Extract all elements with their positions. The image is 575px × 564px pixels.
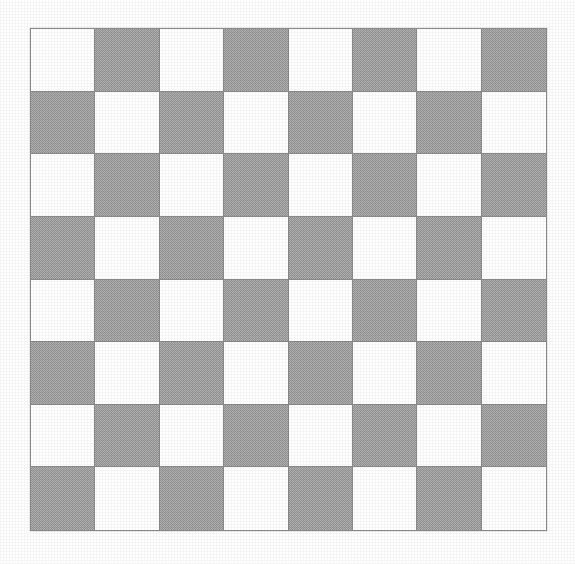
board-square-light-r8c8[interactable] <box>482 467 546 530</box>
board-square-dark-r2c5[interactable] <box>289 92 353 155</box>
board-square-dark-r2c1[interactable] <box>31 92 95 155</box>
board-square-light-r3c1[interactable] <box>31 154 95 217</box>
board-square-dark-r3c8[interactable] <box>482 154 546 217</box>
board-square-light-r7c7[interactable] <box>417 405 481 468</box>
board-square-dark-r2c3[interactable] <box>160 92 224 155</box>
board-square-dark-r5c6[interactable] <box>353 280 417 343</box>
board-square-dark-r3c2[interactable] <box>95 154 159 217</box>
board-square-dark-r3c6[interactable] <box>353 154 417 217</box>
board-square-dark-r1c8[interactable] <box>482 29 546 92</box>
board-square-dark-r1c6[interactable] <box>353 29 417 92</box>
board-square-dark-r4c7[interactable] <box>417 217 481 280</box>
board-square-light-r4c8[interactable] <box>482 217 546 280</box>
board-square-light-r1c5[interactable] <box>289 29 353 92</box>
board-square-light-r3c7[interactable] <box>417 154 481 217</box>
board-square-dark-r8c3[interactable] <box>160 467 224 530</box>
board-square-dark-r7c2[interactable] <box>95 405 159 468</box>
board-square-dark-r4c3[interactable] <box>160 217 224 280</box>
board-square-light-r3c5[interactable] <box>289 154 353 217</box>
board-square-dark-r7c4[interactable] <box>224 405 288 468</box>
board-square-light-r4c2[interactable] <box>95 217 159 280</box>
board-square-light-r7c5[interactable] <box>289 405 353 468</box>
board-square-light-r6c2[interactable] <box>95 342 159 405</box>
board-square-dark-r3c4[interactable] <box>224 154 288 217</box>
board-square-dark-r5c2[interactable] <box>95 280 159 343</box>
board-square-dark-r5c8[interactable] <box>482 280 546 343</box>
board-square-dark-r2c7[interactable] <box>417 92 481 155</box>
board-square-light-r5c1[interactable] <box>31 280 95 343</box>
board-square-light-r7c3[interactable] <box>160 405 224 468</box>
checkerboard[interactable] <box>30 28 547 531</box>
board-square-light-r6c4[interactable] <box>224 342 288 405</box>
board-square-light-r4c6[interactable] <box>353 217 417 280</box>
board-square-dark-r7c8[interactable] <box>482 405 546 468</box>
board-square-light-r1c7[interactable] <box>417 29 481 92</box>
board-square-light-r2c4[interactable] <box>224 92 288 155</box>
board-square-light-r5c5[interactable] <box>289 280 353 343</box>
board-square-dark-r4c1[interactable] <box>31 217 95 280</box>
board-square-dark-r1c2[interactable] <box>95 29 159 92</box>
board-square-light-r3c3[interactable] <box>160 154 224 217</box>
board-square-light-r8c4[interactable] <box>224 467 288 530</box>
board-square-dark-r8c5[interactable] <box>289 467 353 530</box>
board-square-light-r1c3[interactable] <box>160 29 224 92</box>
board-square-dark-r8c1[interactable] <box>31 467 95 530</box>
board-square-light-r4c4[interactable] <box>224 217 288 280</box>
board-square-dark-r1c4[interactable] <box>224 29 288 92</box>
board-square-light-r5c3[interactable] <box>160 280 224 343</box>
board-square-light-r7c1[interactable] <box>31 405 95 468</box>
board-square-light-r2c6[interactable] <box>353 92 417 155</box>
board-square-light-r6c8[interactable] <box>482 342 546 405</box>
board-square-light-r5c7[interactable] <box>417 280 481 343</box>
board-square-dark-r5c4[interactable] <box>224 280 288 343</box>
board-square-light-r1c1[interactable] <box>31 29 95 92</box>
board-square-light-r6c6[interactable] <box>353 342 417 405</box>
board-square-dark-r7c6[interactable] <box>353 405 417 468</box>
page-canvas <box>0 0 575 564</box>
board-square-light-r8c6[interactable] <box>353 467 417 530</box>
board-square-light-r2c2[interactable] <box>95 92 159 155</box>
board-square-light-r2c8[interactable] <box>482 92 546 155</box>
board-square-dark-r4c5[interactable] <box>289 217 353 280</box>
board-square-light-r8c2[interactable] <box>95 467 159 530</box>
board-square-dark-r6c7[interactable] <box>417 342 481 405</box>
board-square-dark-r8c7[interactable] <box>417 467 481 530</box>
board-square-dark-r6c3[interactable] <box>160 342 224 405</box>
board-square-dark-r6c5[interactable] <box>289 342 353 405</box>
board-square-dark-r6c1[interactable] <box>31 342 95 405</box>
